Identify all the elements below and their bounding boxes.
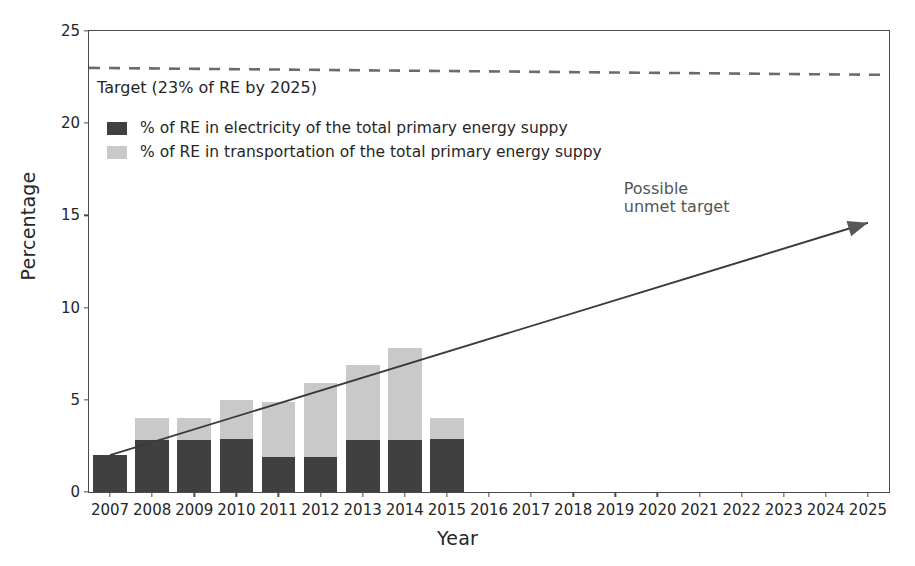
legend-swatch-icon xyxy=(107,122,127,135)
chart-legend: % of RE in electricity of the total prim… xyxy=(107,116,602,164)
x-tick-mark xyxy=(278,492,279,497)
y-tick-label: 10 xyxy=(61,299,80,317)
target-line-label: Target (23% of RE by 2025) xyxy=(97,78,317,97)
x-tick-label: 2021 xyxy=(680,501,718,519)
x-tick-label: 2022 xyxy=(723,501,761,519)
annotation-line-2: unmet target xyxy=(624,198,730,217)
target-threshold-line xyxy=(89,68,889,75)
x-tick-mark xyxy=(573,492,574,497)
x-tick-label: 2008 xyxy=(133,501,171,519)
legend-item-label: % of RE in transportation of the total p… xyxy=(140,143,602,161)
x-tick-label: 2017 xyxy=(512,501,550,519)
x-tick-mark xyxy=(825,492,826,497)
trend-projection-line xyxy=(110,223,868,455)
x-tick-mark xyxy=(362,492,363,497)
x-tick-label: 2013 xyxy=(344,501,382,519)
x-tick-label: 2019 xyxy=(596,501,634,519)
x-tick-label: 2015 xyxy=(428,501,466,519)
x-tick-mark xyxy=(152,492,153,497)
chart-figure: Percentage 0510152025 200720082009201020… xyxy=(0,0,915,566)
y-axis-label: Percentage xyxy=(17,136,39,316)
legend-item[interactable]: % of RE in transportation of the total p… xyxy=(107,140,602,164)
x-tick-label: 2025 xyxy=(849,501,887,519)
y-tick-label: 5 xyxy=(70,391,80,409)
x-tick-mark xyxy=(699,492,700,497)
x-tick-mark xyxy=(320,492,321,497)
x-tick-mark xyxy=(488,492,489,497)
y-tick-label: 15 xyxy=(61,206,80,224)
x-tick-mark xyxy=(530,492,531,497)
x-tick-mark xyxy=(109,492,110,497)
x-tick-mark xyxy=(867,492,868,497)
annotation-line-1: Possible xyxy=(624,180,730,199)
x-tick-mark xyxy=(404,492,405,497)
x-axis-label: Year xyxy=(0,527,915,549)
x-tick-mark xyxy=(783,492,784,497)
x-tick-label: 2009 xyxy=(175,501,213,519)
x-tick-label: 2014 xyxy=(386,501,424,519)
trend-arrowhead-icon xyxy=(846,221,867,236)
x-tick-mark xyxy=(657,492,658,497)
plot-area: 0510152025 20072008200920102011201220132… xyxy=(88,30,890,493)
x-tick-label: 2010 xyxy=(217,501,255,519)
y-tick-label: 20 xyxy=(61,114,80,132)
x-tick-label: 2011 xyxy=(259,501,297,519)
x-tick-mark xyxy=(615,492,616,497)
x-tick-mark xyxy=(236,492,237,497)
x-tick-label: 2018 xyxy=(554,501,592,519)
legend-item[interactable]: % of RE in electricity of the total prim… xyxy=(107,116,602,140)
y-tick-label: 25 xyxy=(61,22,80,40)
legend-swatch-icon xyxy=(107,146,127,159)
x-tick-label: 2023 xyxy=(765,501,803,519)
x-tick-label: 2012 xyxy=(301,501,339,519)
chart-overlay xyxy=(89,31,889,492)
legend-item-label: % of RE in electricity of the total prim… xyxy=(140,119,568,137)
x-tick-label: 2016 xyxy=(470,501,508,519)
x-tick-label: 2007 xyxy=(91,501,129,519)
unmet-target-annotation: Possible unmet target xyxy=(624,180,730,218)
x-tick-mark xyxy=(741,492,742,497)
y-tick-label: 0 xyxy=(70,483,80,501)
x-tick-label: 2024 xyxy=(807,501,845,519)
x-tick-mark xyxy=(446,492,447,497)
x-tick-label: 2020 xyxy=(638,501,676,519)
x-tick-mark xyxy=(194,492,195,497)
